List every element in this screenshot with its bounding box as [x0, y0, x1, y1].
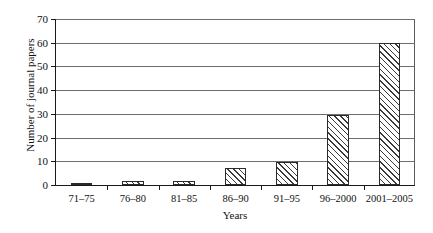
bar	[225, 168, 247, 185]
y-tick-mark	[51, 138, 56, 139]
plot-area: 010203040506070 71–7576–8081–8586–9091–9…	[55, 19, 415, 186]
y-tick-mark	[51, 43, 56, 44]
y-tick-label: 30	[37, 108, 48, 120]
gridline	[56, 161, 415, 162]
y-tick-label: 20	[37, 132, 48, 144]
y-axis-title: Number of journal papers	[22, 0, 38, 195]
y-tick-mark	[51, 19, 56, 20]
y-tick-mark	[51, 90, 56, 91]
x-tick-mark	[261, 185, 262, 190]
x-tick-mark	[210, 185, 211, 190]
bar	[71, 183, 93, 185]
gridline	[56, 114, 415, 115]
x-tick-mark	[107, 185, 108, 190]
bar	[379, 43, 401, 185]
y-tick-mark	[51, 185, 56, 186]
bar	[122, 181, 144, 185]
gridline	[56, 90, 415, 91]
y-tick-label: 10	[37, 155, 48, 167]
x-tick-label: 86–90	[222, 193, 248, 204]
x-tick-label: 96–2000	[320, 193, 357, 204]
y-tick-label: 40	[37, 84, 48, 96]
gridline	[56, 19, 415, 20]
y-tick-label: 60	[37, 37, 48, 49]
gridline	[56, 66, 415, 67]
bar-chart-figure: Number of journal papers 010203040506070…	[0, 0, 433, 233]
x-tick-label: 2001–2005	[366, 193, 413, 204]
y-tick-mark	[51, 161, 56, 162]
y-tick-mark	[51, 66, 56, 67]
x-axis-title: Years	[55, 209, 415, 221]
x-tick-mark	[159, 185, 160, 190]
bar	[173, 181, 195, 185]
y-tick-label: 0	[43, 179, 49, 191]
bar	[276, 162, 298, 185]
gridline	[56, 43, 415, 44]
y-tick-label: 50	[37, 60, 48, 72]
plot-frame-right	[414, 19, 415, 185]
x-tick-label: 76–80	[120, 193, 146, 204]
gridline	[56, 138, 415, 139]
x-tick-label: 71–75	[69, 193, 95, 204]
y-tick-mark	[51, 114, 56, 115]
x-tick-mark	[364, 185, 365, 190]
y-tick-label: 70	[37, 13, 48, 25]
bar	[327, 115, 349, 185]
x-tick-label: 81–85	[171, 193, 197, 204]
x-tick-label: 91–95	[274, 193, 300, 204]
x-tick-mark	[312, 185, 313, 190]
